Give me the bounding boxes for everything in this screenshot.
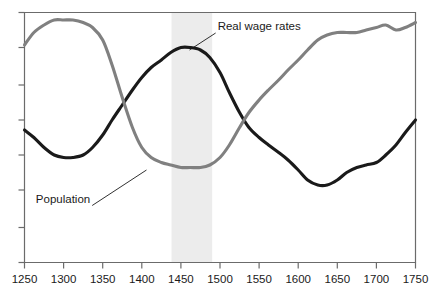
x-axis-label-1350: 1350 <box>90 273 116 285</box>
x-axis-label-1650: 1650 <box>325 273 351 285</box>
x-axis-label-1550: 1550 <box>246 273 272 285</box>
series-line-real-wage-rates <box>25 47 416 186</box>
annotations-group: Real wage ratesPopulation <box>36 20 301 206</box>
plot-frame <box>25 13 416 263</box>
x-tick-labels-group: 1250130013501400145015001550160016501700… <box>12 273 429 285</box>
x-axis-label-1600: 1600 <box>285 273 311 285</box>
x-axis-label-1450: 1450 <box>168 273 194 285</box>
series-group <box>25 20 416 186</box>
chart-container: Real wage ratesPopulation 12501300135014… <box>0 0 432 297</box>
x-axis-label-1400: 1400 <box>129 273 155 285</box>
x-axis-label-1750: 1750 <box>403 273 429 285</box>
x-axis-label-1500: 1500 <box>207 273 233 285</box>
x-axis-label-1700: 1700 <box>364 273 390 285</box>
series-line-population <box>25 20 416 168</box>
axes-group <box>25 13 416 263</box>
annotation-label-population: Population <box>36 193 90 205</box>
annotation-label-real-wage-rates: Real wage rates <box>218 20 301 32</box>
annotation-leader-population <box>92 170 146 206</box>
line-chart: Real wage ratesPopulation 12501300135014… <box>0 0 432 297</box>
x-axis-label-1300: 1300 <box>51 273 77 285</box>
tick-marks-group <box>19 13 416 269</box>
x-axis-label-1250: 1250 <box>12 273 38 285</box>
